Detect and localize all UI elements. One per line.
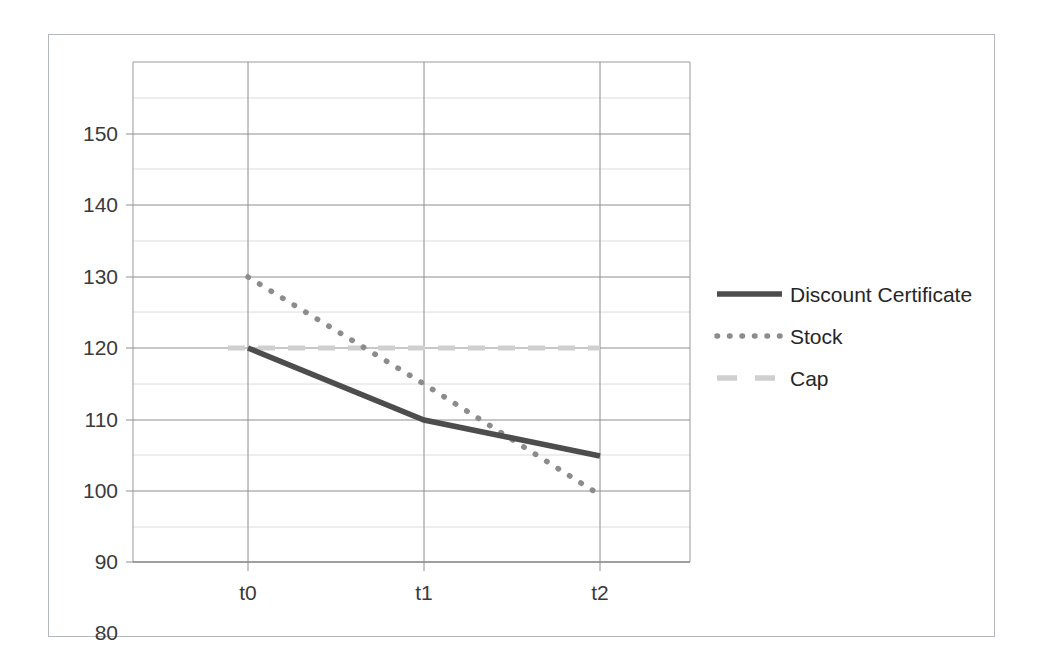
y-axis-tick-labels: 150 140 130 120 110 100 90 80: [83, 122, 118, 644]
x-tick-label-t0: t0: [239, 581, 257, 604]
y-tick-label-100: 100: [83, 479, 118, 502]
y-tick-label-90: 90: [95, 550, 118, 573]
minor-gridlines-horizontal: [133, 98, 690, 527]
y-tick-label-80: 80: [95, 621, 118, 644]
x-tick-label-t2: t2: [591, 581, 609, 604]
line-chart-canvas: 150 140 130 120 110 100 90 80 t0 t1 t2: [0, 0, 1042, 662]
x-axis-tick-labels: t0 t1 t2: [239, 581, 609, 604]
x-axis: [133, 562, 690, 571]
chart-figure: 150 140 130 120 110 100 90 80 t0 t1 t2: [0, 0, 1042, 662]
legend-label-cap: Cap: [790, 367, 829, 390]
y-tick-label-130: 130: [83, 265, 118, 288]
y-tick-label-140: 140: [83, 193, 118, 216]
y-tick-label-120: 120: [83, 336, 118, 359]
chart-legend: Discount Certificate Stock Cap: [717, 283, 972, 390]
x-tick-label-t1: t1: [415, 581, 433, 604]
legend-label-discount-certificate: Discount Certificate: [790, 283, 972, 306]
y-tick-label-110: 110: [85, 408, 118, 431]
legend-entry-cap[interactable]: Cap: [717, 367, 829, 390]
y-axis-ticks: [126, 134, 133, 562]
legend-entry-discount-certificate[interactable]: Discount Certificate: [717, 283, 972, 306]
legend-label-stock: Stock: [790, 325, 843, 348]
legend-entry-stock[interactable]: Stock: [717, 325, 843, 348]
y-tick-label-150: 150: [83, 122, 118, 145]
